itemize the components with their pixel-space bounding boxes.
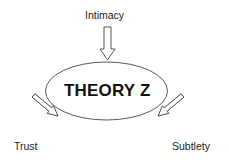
center-label: THEORY Z — [64, 81, 151, 101]
arrow-down-icon — [100, 27, 115, 60]
arrow-up-right-icon — [30, 92, 61, 120]
label-intimacy: Intimacy — [85, 9, 124, 21]
label-subtlety: Subtlety — [172, 140, 210, 152]
label-trust: Trust — [14, 140, 38, 152]
